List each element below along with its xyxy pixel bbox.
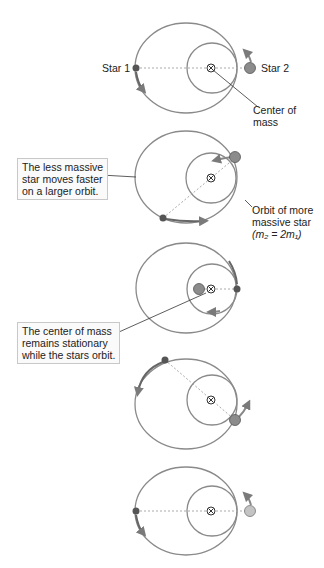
- callout-center-stationary: The center of mass remains stationary wh…: [17, 322, 120, 364]
- panel-3: [110, 243, 241, 336]
- label-star2: Star 2: [261, 62, 289, 74]
- panel-5: [133, 467, 256, 555]
- star2: [245, 63, 256, 74]
- label-center-of-mass: Center of mass: [253, 104, 296, 128]
- panel-1: [133, 23, 259, 113]
- panel-4: [135, 357, 248, 450]
- label-star1: Star 1: [102, 62, 130, 74]
- label-orbit-more-massive: Orbit of more massive star (m₂ = 2m₁): [252, 204, 313, 240]
- center-of-mass-icon: [207, 396, 215, 404]
- panel-2: [101, 131, 252, 223]
- center-of-mass-icon: [207, 174, 215, 182]
- star1: [133, 65, 140, 72]
- center-of-mass-icon: [207, 507, 215, 515]
- binary-star-diagram: [0, 0, 324, 568]
- center-of-mass-icon: [207, 285, 215, 293]
- callout-less-massive: The less massive star moves faster on a …: [17, 158, 108, 200]
